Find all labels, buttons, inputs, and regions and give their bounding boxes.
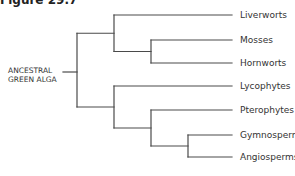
root-label-line-1: ANCESTRAL (8, 66, 53, 75)
tree-branches (63, 15, 232, 157)
taxon-label-gymnosperms: Gymnosperms (240, 130, 295, 140)
taxon-label-hornworts: Hornworts (240, 58, 287, 68)
root-label-line-2: GREEN ALGA (8, 75, 58, 84)
taxon-label-liverworts: Liverworts (240, 10, 287, 20)
phylogenetic-tree: ANCESTRAL GREEN ALGA LiverwortsMossesHor… (0, 0, 295, 176)
taxon-label-mosses: Mosses (240, 35, 273, 45)
taxon-label-pterophytes: Pterophytes (240, 105, 294, 115)
taxon-label-lycophytes: Lycophytes (240, 81, 291, 91)
taxon-label-angiosperms: Angiosperms (240, 152, 295, 162)
